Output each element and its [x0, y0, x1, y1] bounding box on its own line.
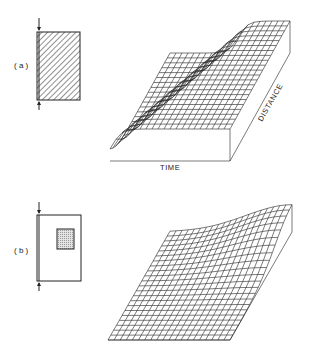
figure-canvas: ( a ) TIME DISTANCE ( b ) [0, 0, 309, 360]
output-arrow-icon [37, 282, 41, 291]
schematic-a: ( a ) [14, 18, 80, 110]
input-arrow-icon [37, 202, 41, 214]
output-arrow-icon [37, 101, 41, 110]
surface-a [110, 21, 290, 161]
hatched-domain [37, 32, 80, 100]
panel-label-a: ( a ) [14, 61, 29, 70]
schematic-b: ( b ) [14, 202, 81, 291]
surface-b [108, 205, 292, 340]
axis-label-time: TIME [160, 163, 180, 172]
input-arrow-icon [37, 18, 41, 31]
shaded-inclusion [57, 229, 74, 249]
panel-label-b: ( b ) [14, 246, 29, 255]
